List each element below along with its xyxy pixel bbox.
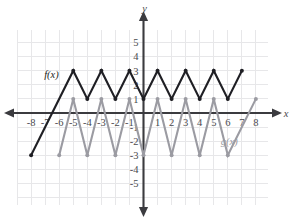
y-axis-name: y <box>141 3 147 14</box>
data-point-marker <box>71 69 75 73</box>
y-tick-label: 3 <box>133 66 138 77</box>
x-tick-label: -8 <box>27 117 36 128</box>
axes-layer <box>4 11 282 217</box>
x-axis-name: x <box>283 108 289 119</box>
y-tick-label: 1 <box>133 94 138 105</box>
data-point-marker <box>212 97 216 101</box>
data-point-marker <box>198 153 202 157</box>
data-point-marker <box>85 153 89 157</box>
y-tick-label: -5 <box>130 178 139 189</box>
coordinate-plane-svg: -8-7-6-5-4-3-2-11234567854321-1-2-3-4-5x… <box>0 0 292 218</box>
series-label-g: g(x) <box>221 136 238 148</box>
data-point-marker <box>184 97 188 101</box>
data-point-marker <box>142 97 146 101</box>
graph-figure: -8-7-6-5-4-3-2-11234567854321-1-2-3-4-5x… <box>0 0 292 218</box>
data-point-marker <box>99 97 103 101</box>
data-point-marker <box>85 97 89 101</box>
x-axis-arrow-left <box>4 108 14 117</box>
y-tick-label: 5 <box>133 37 138 48</box>
series-label-f: f(x) <box>44 69 59 81</box>
y-tick-label: 4 <box>133 51 139 62</box>
x-tick-label: -5 <box>69 117 78 128</box>
x-axis-arrow-right <box>272 108 282 117</box>
data-point-marker <box>156 69 160 73</box>
x-tick-label: 6 <box>225 117 230 128</box>
data-point-marker <box>198 97 202 101</box>
data-point-marker <box>127 97 131 101</box>
x-tick-label: -3 <box>97 117 106 128</box>
data-point-marker <box>184 69 188 73</box>
x-tick-label: 5 <box>211 117 216 128</box>
y-tick-label: -3 <box>130 150 139 161</box>
x-tick-label: 4 <box>197 117 203 128</box>
x-tick-label: -6 <box>55 117 64 128</box>
data-point-marker <box>71 97 75 101</box>
x-tick-label: -4 <box>83 117 92 128</box>
x-tick-label: 1 <box>155 117 160 128</box>
data-point-marker <box>99 69 103 73</box>
data-point-marker <box>113 153 117 157</box>
y-tick-label: -4 <box>130 164 139 175</box>
data-point-marker <box>113 97 117 101</box>
data-point-marker <box>142 153 146 157</box>
y-tick-label: -2 <box>130 136 139 147</box>
x-tick-label: 3 <box>183 117 188 128</box>
y-axis-arrow-down <box>139 207 148 217</box>
data-point-marker <box>226 153 230 157</box>
data-point-marker <box>29 153 33 157</box>
data-point-marker <box>127 69 131 73</box>
data-point-marker <box>57 153 61 157</box>
data-point-marker <box>212 69 216 73</box>
data-point-marker <box>240 69 244 73</box>
data-point-marker <box>226 97 230 101</box>
x-tick-label: 8 <box>253 117 258 128</box>
data-point-marker <box>170 97 174 101</box>
x-tick-label: 2 <box>169 117 174 128</box>
data-point-marker <box>254 97 258 101</box>
data-point-marker <box>156 97 160 101</box>
x-tick-label: -2 <box>111 117 120 128</box>
data-point-marker <box>170 153 174 157</box>
